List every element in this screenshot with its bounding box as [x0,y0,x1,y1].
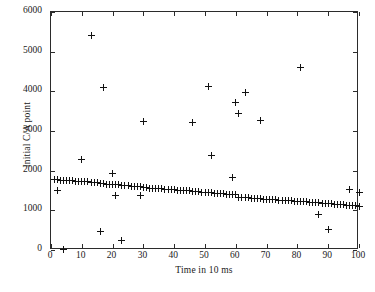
plot-area [50,11,358,249]
x-tick-mark [359,12,360,16]
y-tick-label: 3000 [23,125,42,135]
data-point [100,84,107,91]
data-point [78,156,85,163]
x-tick-mark [113,244,114,248]
data-point [356,189,363,196]
x-tick-mark [267,244,268,248]
x-tick-label: 90 [322,251,332,261]
data-point [208,152,215,159]
x-tick-mark [51,244,52,248]
y-tick-label: 0 [37,244,42,254]
x-tick-mark [297,12,298,16]
x-tick-mark [51,12,52,16]
y-tick-mark [51,131,55,132]
x-tick-label: 10 [76,251,86,261]
x-tick-label: 40 [168,251,178,261]
x-tick-mark [236,244,237,248]
data-point [88,32,95,39]
data-points-layer [51,12,357,248]
y-tick-label: 4000 [23,86,42,96]
figure-scatter-plot: Initial C/A point 0100020003000400050006… [0,0,375,292]
x-tick-mark [205,244,206,248]
y-tick-mark [51,171,55,172]
x-tick-mark [174,244,175,248]
y-tick-mark [51,210,55,211]
x-tick-mark [328,12,329,16]
data-point [346,186,353,193]
x-tick-mark [205,12,206,16]
x-tick-label: 50 [199,251,209,261]
x-tick-label: 100 [351,251,365,261]
x-tick-label: 60 [230,251,240,261]
data-point [257,117,264,124]
data-point [189,119,196,126]
y-tick-mark [51,91,55,92]
x-tick-mark [359,244,360,248]
y-axis-tick-labels: 0100020003000400050006000 [0,11,46,249]
data-point [315,211,322,218]
x-tick-mark [143,244,144,248]
x-tick-mark [143,12,144,16]
data-point [54,187,61,194]
x-tick-label: 0 [48,251,53,261]
data-point [109,170,116,177]
y-tick-label: 5000 [23,46,42,56]
y-tick-label: 2000 [23,165,42,175]
y-tick-mark [353,131,357,132]
x-axis-title: Time in 10 ms [50,266,358,276]
data-point [205,83,212,90]
data-point [112,192,119,199]
x-tick-mark [82,12,83,16]
y-tick-label: 1000 [23,205,42,215]
y-tick-label: 6000 [23,6,42,16]
y-tick-mark [353,171,357,172]
x-tick-label: 80 [292,251,302,261]
x-tick-mark [267,12,268,16]
y-tick-mark [353,52,357,53]
y-tick-mark [353,12,357,13]
x-tick-mark [113,12,114,16]
x-tick-mark [328,244,329,248]
x-tick-mark [297,244,298,248]
y-tick-mark [353,91,357,92]
data-point [97,228,104,235]
x-tick-mark [174,12,175,16]
y-tick-mark [353,210,357,211]
x-tick-mark [82,244,83,248]
data-point [229,174,236,181]
x-tick-label: 70 [261,251,271,261]
x-tick-label: 20 [107,251,117,261]
x-axis-tick-labels: 0102030405060708090100 [50,251,358,265]
data-point [297,64,304,71]
data-point [232,99,239,106]
data-point [140,118,147,125]
data-point [118,237,125,244]
data-point [325,226,332,233]
data-point [242,89,249,96]
x-tick-mark [236,12,237,16]
data-point [137,192,144,199]
data-point [235,110,242,117]
x-tick-label: 30 [138,251,148,261]
y-tick-mark [51,52,55,53]
